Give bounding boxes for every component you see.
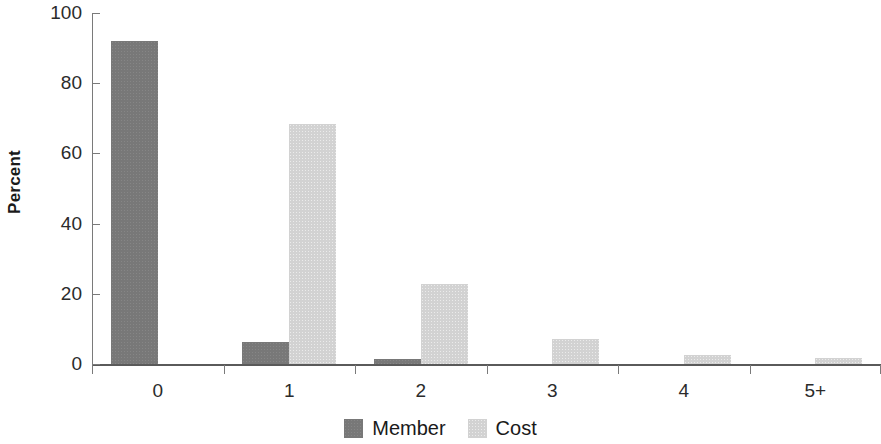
y-axis-tick-label: 0 bbox=[36, 353, 82, 375]
y-axis-tick-mark bbox=[92, 364, 100, 365]
y-axis-tick-group: 020406080100 bbox=[30, 0, 82, 444]
y-axis-tick-mark bbox=[92, 224, 100, 225]
bar-cost-5plus bbox=[815, 358, 862, 364]
bar-member-0 bbox=[111, 41, 158, 364]
y-axis-tick-mark bbox=[92, 294, 100, 295]
y-axis-tick-label: 60 bbox=[36, 142, 82, 164]
x-axis-tick-mark bbox=[224, 365, 225, 374]
legend-label: Member bbox=[372, 417, 445, 440]
y-axis-tick-label: 20 bbox=[36, 283, 82, 305]
bar-cost-4 bbox=[684, 355, 731, 364]
bar-member-1 bbox=[242, 342, 289, 364]
y-axis-tick-mark bbox=[92, 153, 100, 154]
bar-member-2 bbox=[374, 359, 421, 364]
y-axis-tick-mark bbox=[92, 13, 100, 14]
legend-swatch-icon bbox=[344, 419, 363, 438]
x-axis-tick-mark bbox=[355, 365, 356, 374]
x-axis-tick-mark bbox=[618, 365, 619, 374]
x-axis-tick-label: 0 bbox=[152, 380, 163, 402]
x-axis-tick-label: 2 bbox=[415, 380, 426, 402]
legend-entry-member[interactable]: Member bbox=[344, 417, 445, 440]
y-axis-tick-label: 80 bbox=[36, 72, 82, 94]
chart-legend: MemberCost bbox=[0, 417, 881, 440]
bar-chart: Percent 020406080100 MemberCost 012345+ bbox=[0, 0, 881, 444]
x-axis-tick-mark bbox=[92, 365, 93, 374]
bar-cost-1 bbox=[289, 124, 336, 364]
x-axis-tick-label: 3 bbox=[547, 380, 558, 402]
legend-label: Cost bbox=[496, 417, 537, 440]
y-axis-title-text: Percent bbox=[5, 150, 25, 214]
bar-cost-3 bbox=[552, 339, 599, 364]
legend-entry-cost[interactable]: Cost bbox=[468, 417, 537, 440]
x-axis-tick-mark bbox=[750, 365, 751, 374]
x-axis-tick-label: 5+ bbox=[804, 380, 826, 402]
x-axis-tick-mark bbox=[487, 365, 488, 374]
x-axis-tick-label: 1 bbox=[284, 380, 295, 402]
legend-swatch-icon bbox=[468, 419, 487, 438]
y-axis-title: Percent bbox=[0, 0, 30, 364]
y-axis-tick-label: 100 bbox=[36, 2, 82, 24]
plot-area bbox=[92, 13, 881, 364]
y-axis-tick-mark bbox=[92, 83, 100, 84]
bar-cost-2 bbox=[421, 284, 468, 364]
x-axis-tick-label: 4 bbox=[678, 380, 689, 402]
y-axis-tick-label: 40 bbox=[36, 213, 82, 235]
